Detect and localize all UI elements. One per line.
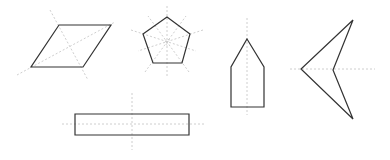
rectangle-group [62,93,206,150]
pentagon-group [131,6,203,78]
regular-pentagon [143,17,190,63]
parallelogram-group [17,10,115,80]
parallelogram-symmetry-line-1 [50,10,88,80]
house-pentagon [231,39,264,107]
symmetry-diagram [0,0,390,160]
arrowhead-group [290,20,375,119]
house-group [231,18,264,115]
arrowhead [301,20,353,119]
